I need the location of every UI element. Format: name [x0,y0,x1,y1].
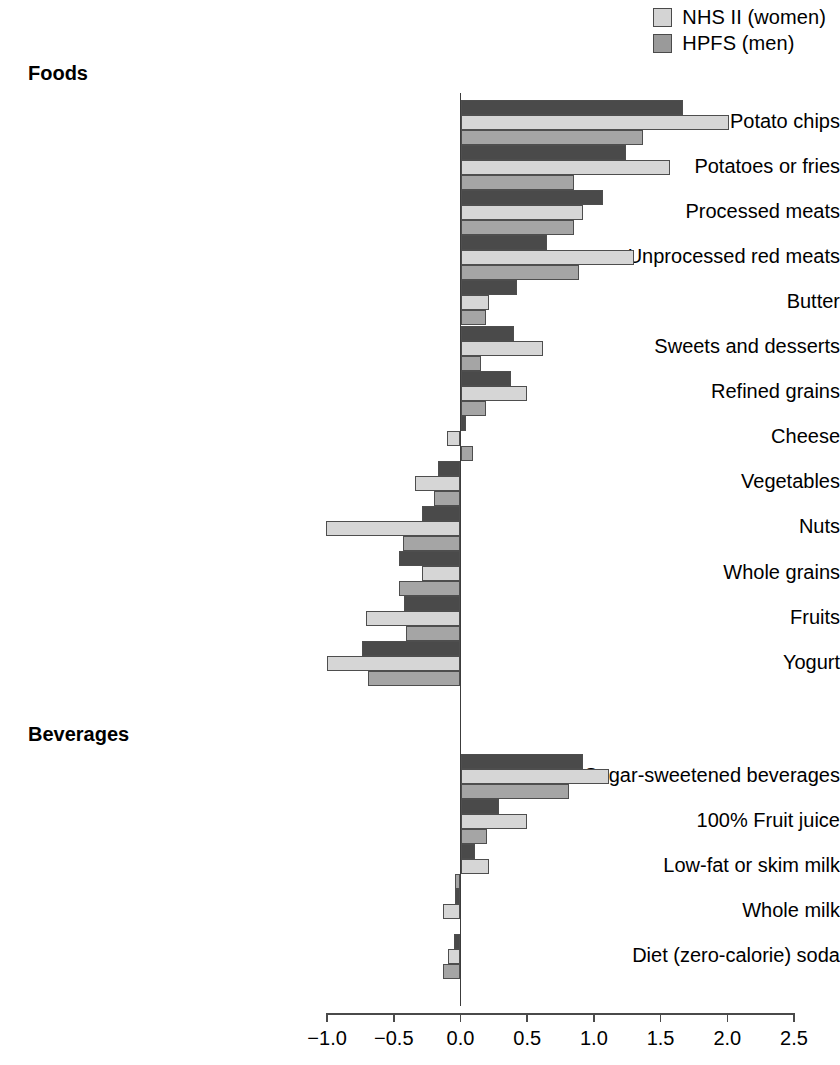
bar [368,671,460,686]
bar [461,769,609,784]
bar [461,265,580,280]
bar [461,115,729,130]
bar [461,814,528,829]
bar [461,844,476,859]
bar [461,145,626,160]
x-axis-tick [793,1013,795,1022]
bar [461,416,466,431]
bar [461,100,684,115]
bar [447,431,460,446]
bar [366,611,461,626]
bar [403,536,460,551]
bar [461,175,574,190]
x-axis-tick [727,1013,729,1022]
bar [461,220,574,235]
bar [461,160,670,175]
bar [461,754,584,769]
bar [461,130,644,145]
bar [461,341,544,356]
bar [438,461,461,476]
zero-reference-line [460,93,462,1006]
bar [461,190,604,205]
bar [461,205,584,220]
bar [461,799,500,814]
category-label: Nuts [420,515,840,538]
bar [461,326,514,341]
bar [461,310,486,325]
bar [422,566,461,581]
bar [406,626,461,641]
bar [399,581,460,596]
category-label: Vegetables [420,470,840,493]
bar [461,446,473,461]
bar [415,476,460,491]
bar [326,521,461,536]
x-axis-tick-label: −0.5 [364,1027,424,1050]
x-axis-tick [460,1013,462,1022]
bar [461,784,569,799]
bar [443,964,460,979]
bar [434,491,461,506]
bar [443,904,460,919]
x-axis-tick [393,1013,395,1022]
x-axis-tick-label: 2.0 [697,1027,757,1050]
bar [461,356,481,371]
plot-area: Potato chipsPotatoes or friesProcessed m… [0,0,840,1065]
bar [461,280,517,295]
x-axis-line [327,1013,794,1015]
bar [461,386,528,401]
category-label: Whole milk [420,899,840,922]
bar [448,949,460,964]
chart-container: NHS II (women) HPFS (men) Foods Beverage… [0,0,840,1065]
bar [327,656,460,671]
bar [399,551,460,566]
bar [461,859,489,874]
x-axis-tick-label: 2.5 [764,1027,824,1050]
bar [461,235,548,250]
x-axis-tick-label: 1.0 [564,1027,624,1050]
x-axis-tick-label: 0.5 [497,1027,557,1050]
x-axis-tick-label: 0.0 [431,1027,491,1050]
bar [422,506,461,521]
x-axis-tick [660,1013,662,1022]
x-axis-tick [593,1013,595,1022]
x-axis-tick-label: 1.5 [631,1027,691,1050]
bar [461,401,486,416]
x-axis-tick [526,1013,528,1022]
category-label: Fruits [420,606,840,629]
x-axis-tick-label: −1.0 [297,1027,357,1050]
category-label: Yogurt [420,651,840,674]
bar [461,295,489,310]
bar [362,641,461,656]
category-label: Diet (zero-calorie) soda [420,944,840,967]
bar [461,250,634,265]
bar [461,371,512,386]
x-axis-tick [326,1013,328,1022]
category-label: Whole grains [420,561,840,584]
bar [461,829,488,844]
category-label: Cheese [420,425,840,448]
bar [404,596,460,611]
